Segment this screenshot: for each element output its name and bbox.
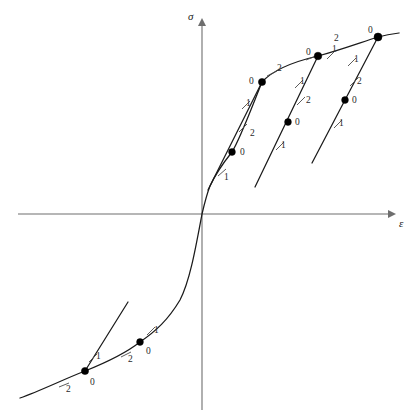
node-label: 0 bbox=[295, 117, 300, 127]
node-dots-group bbox=[81, 33, 382, 375]
node-label: 0 bbox=[352, 95, 357, 105]
cycle-label: 2 bbox=[334, 33, 339, 43]
unloading-branches-group bbox=[85, 37, 378, 371]
direction-tick bbox=[267, 71, 277, 76]
cycle-label: 2 bbox=[250, 128, 255, 138]
node-labels-group: 0 0 0 0 0 0 0 0 bbox=[90, 25, 373, 387]
node-label: 0 bbox=[90, 377, 95, 387]
node-dot bbox=[229, 149, 236, 156]
node-dot bbox=[342, 97, 349, 104]
cycle-label: 1 bbox=[281, 140, 286, 150]
cycle-label: 1 bbox=[300, 76, 305, 86]
stress-strain-figure: 0 0 0 0 0 0 0 0 1 2 1 2 1 2 1 2 1 1 2 1 … bbox=[0, 0, 416, 419]
cycle-label: 1 bbox=[246, 98, 251, 108]
cycle-label: 1 bbox=[96, 351, 101, 361]
cycle-label: 1 bbox=[224, 172, 229, 182]
cycle-label: 2 bbox=[66, 384, 71, 394]
node-dot bbox=[258, 78, 265, 85]
cycle-label: 2 bbox=[357, 76, 362, 86]
node-dot bbox=[137, 339, 144, 346]
node-dot bbox=[374, 33, 382, 41]
cycle-label: 1 bbox=[354, 54, 359, 64]
cycle-label: 1 bbox=[332, 44, 337, 54]
x-axis-label: ε bbox=[399, 217, 404, 229]
x-axis-arrowhead bbox=[388, 210, 396, 218]
cycle-label: 1 bbox=[154, 325, 159, 335]
cycle-label: 2 bbox=[128, 354, 133, 364]
backbone-curve bbox=[20, 33, 399, 398]
node-dot bbox=[285, 119, 292, 126]
backbone-curve-group bbox=[20, 33, 399, 398]
unloading-branch-4 bbox=[85, 302, 128, 371]
cycle-label: 1 bbox=[339, 118, 344, 128]
cycle-label: 2 bbox=[306, 95, 311, 105]
axes-group bbox=[18, 18, 396, 410]
node-label: 0 bbox=[146, 346, 151, 356]
direction-ticks-group bbox=[59, 51, 358, 387]
plot-canvas: 0 0 0 0 0 0 0 0 1 2 1 2 1 2 1 2 1 1 2 1 … bbox=[0, 0, 416, 419]
node-dot bbox=[314, 52, 322, 60]
cycle-label: 2 bbox=[277, 63, 282, 73]
node-label: 0 bbox=[249, 76, 254, 86]
node-label: 0 bbox=[306, 47, 311, 57]
node-label: 0 bbox=[240, 147, 245, 157]
y-axis-arrowhead bbox=[198, 18, 206, 26]
node-dot bbox=[81, 367, 88, 374]
y-axis-label: σ bbox=[188, 10, 194, 22]
node-label: 0 bbox=[368, 25, 373, 35]
